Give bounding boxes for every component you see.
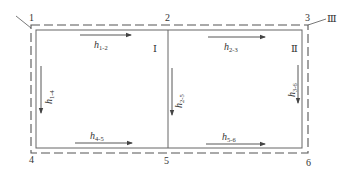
loop-label-iii: Ⅲ: [327, 13, 337, 24]
loop-iii-dashed-outline: [31, 25, 308, 153]
pipe-network-diagram: 1 2 3 4 5 6 Ⅰ Ⅱ Ⅲ h1-2 h2-3 h1-4 h2-5 h3…: [0, 0, 350, 174]
node-label-3: 3: [305, 12, 310, 23]
loop-label-ii: Ⅱ: [291, 43, 298, 54]
head-loss-label-3-6: h3-6: [286, 83, 298, 97]
head-loss-label-2-5: h2-5: [173, 94, 185, 108]
head-loss-label-2-3: h2-3: [224, 41, 238, 53]
head-loss-label-1-2: h1-2: [94, 39, 108, 51]
leader-line-loop-iii: [308, 19, 326, 25]
node-label-4: 4: [29, 154, 34, 165]
head-loss-label-5-6: h5-6: [222, 131, 236, 143]
node-label-5: 5: [164, 155, 169, 166]
node-label-2: 2: [165, 12, 170, 23]
loop-label-i: Ⅰ: [153, 43, 157, 54]
node-label-6: 6: [306, 157, 311, 168]
pipe-network-outline: [36, 30, 302, 148]
node-label-1: 1: [29, 12, 34, 23]
head-loss-label-4-5: h4-5: [90, 130, 104, 142]
head-loss-label-1-4: h1-4: [43, 90, 55, 104]
